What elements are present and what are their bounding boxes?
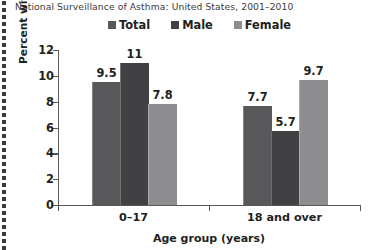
legend-swatch-total — [108, 21, 116, 29]
bar-male-age-18-over[interactable]: 5.7 — [271, 131, 300, 205]
y-axis-tick-label: 6 — [46, 121, 54, 135]
legend-swatch-female — [234, 21, 242, 29]
bar-value-label: 7.7 — [247, 90, 267, 104]
chart-legend: TotalMaleFemale — [108, 18, 291, 32]
y-axis-tick-label: 12 — [38, 43, 54, 57]
y-axis-tick-label: 8 — [46, 95, 54, 109]
bar-male-age-0-17[interactable]: 11 — [120, 63, 149, 205]
legend-label-male: Male — [182, 18, 213, 32]
y-axis-title: Percent with asthma — [17, 0, 29, 64]
x-axis-group-label-age-18-over: 18 and over — [247, 211, 322, 224]
plot-area: 0246810129.5117.87.75.79.70–1718 and ove… — [58, 50, 360, 205]
bar-female-age-0-17[interactable]: 7.8 — [148, 104, 177, 205]
asthma-surveillance-bar-chart: National Surveillance of Asthma: United … — [0, 0, 369, 250]
x-axis-separator-tick — [360, 205, 361, 211]
legend-label-female: Female — [245, 18, 291, 32]
bar-value-label: 7.8 — [152, 88, 172, 102]
chart-title: National Surveillance of Asthma: United … — [15, 1, 293, 12]
legend-item-female[interactable]: Female — [234, 18, 291, 32]
bar-female-age-18-over[interactable]: 9.7 — [299, 80, 328, 205]
x-axis-separator-tick — [209, 205, 210, 211]
legend-label-total: Total — [119, 18, 150, 32]
bar-value-label: 11 — [127, 47, 143, 61]
bar-total-age-18-over[interactable]: 7.7 — [243, 106, 272, 205]
x-axis-separator-tick — [58, 205, 59, 211]
legend-item-male[interactable]: Male — [171, 18, 213, 32]
y-axis-line — [58, 50, 59, 205]
bar-value-label: 9.7 — [303, 64, 323, 78]
legend-item-total[interactable]: Total — [108, 18, 150, 32]
x-axis-group-label-age-0-17: 0–17 — [119, 211, 148, 224]
y-axis-tick-label: 2 — [46, 172, 54, 186]
y-axis-tick-label: 4 — [46, 146, 54, 160]
y-axis-tick-label: 10 — [38, 69, 54, 83]
bar-value-label: 9.5 — [96, 66, 116, 80]
legend-swatch-male — [171, 21, 179, 29]
x-axis-title: Age group (years) — [153, 232, 265, 245]
bar-value-label: 5.7 — [275, 115, 295, 129]
y-axis-tick-label: 0 — [46, 198, 54, 212]
bar-total-age-0-17[interactable]: 9.5 — [92, 82, 121, 205]
